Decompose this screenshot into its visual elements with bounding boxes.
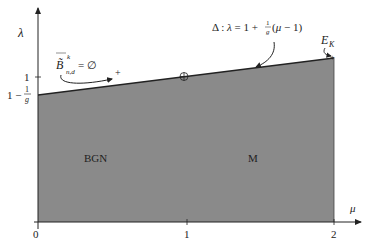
curved-arrow-icon bbox=[256, 42, 274, 67]
boundary-equation: Δ : λ = 1 + 1 g (μ − 1) bbox=[212, 19, 302, 36]
endpoint-plus-marker: + bbox=[330, 52, 335, 62]
svg-text:n,d: n,d bbox=[66, 68, 75, 76]
svg-text:k: k bbox=[67, 53, 71, 61]
svg-text:1: 1 bbox=[266, 19, 270, 27]
x-tick-label-0: 0 bbox=[33, 228, 39, 240]
svg-text:B̃: B̃ bbox=[56, 58, 64, 72]
empty-set-annotation: B̃ k n,d = ∅ bbox=[56, 53, 97, 76]
svg-text:1: 1 bbox=[25, 85, 29, 94]
y-axis-label: λ bbox=[17, 25, 24, 40]
svg-text:Δ : λ = 1 +: Δ : λ = 1 + bbox=[212, 21, 258, 33]
svg-text:K: K bbox=[328, 40, 335, 49]
y-tick-label-1: 1 bbox=[24, 71, 30, 83]
svg-text:g: g bbox=[25, 95, 29, 104]
x-tick-label-2: 2 bbox=[331, 228, 337, 240]
shaded-region bbox=[38, 58, 334, 222]
endpoint-label: E K bbox=[320, 33, 335, 49]
region-label-m: M bbox=[248, 152, 258, 164]
svg-text:g: g bbox=[266, 28, 270, 36]
svg-text:E: E bbox=[320, 33, 329, 47]
region-label-bgn: BGN bbox=[84, 152, 107, 164]
x-tick-label-1: 1 bbox=[184, 228, 190, 240]
circle-plus-marker bbox=[180, 73, 188, 81]
y-tick-label-1-minus-1-over-g: 1 − 1 g bbox=[7, 85, 31, 104]
plus-marker: + bbox=[115, 67, 121, 78]
x-axis-label: μ bbox=[349, 202, 356, 214]
phase-diagram: λ μ 0 1 2 1 1 − 1 g BGN M B̃ k n,d = ∅ +… bbox=[0, 0, 369, 241]
curved-arrow-icon bbox=[61, 75, 112, 83]
svg-text:= ∅: = ∅ bbox=[78, 59, 97, 71]
svg-text:1 −: 1 − bbox=[7, 89, 21, 101]
svg-text:(μ − 1): (μ − 1) bbox=[272, 21, 302, 34]
